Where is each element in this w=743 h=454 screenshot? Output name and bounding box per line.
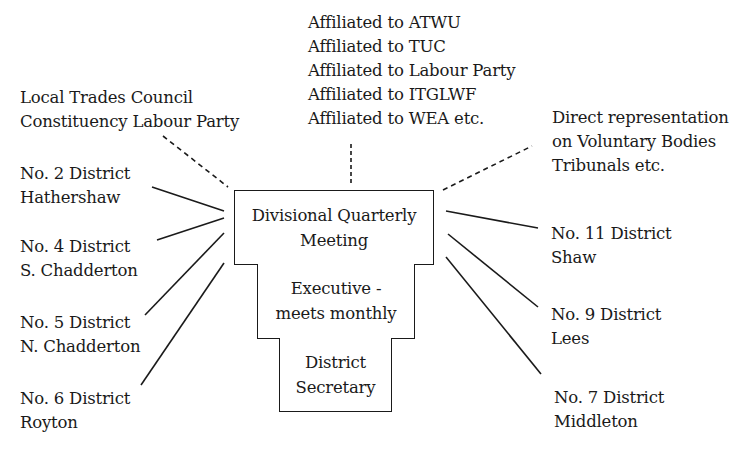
box-line-1: District — [305, 350, 366, 375]
direct-representation: Direct representation on Voluntary Bodie… — [552, 106, 729, 178]
box-line-2: Meeting — [300, 228, 368, 253]
line-district-9 — [448, 234, 538, 307]
box-line-1: Executive - — [291, 276, 382, 301]
district-number: No. 5 District — [20, 311, 140, 335]
direct-representation-line-2: on Voluntary Bodies — [552, 130, 729, 154]
district-name: Shaw — [551, 246, 671, 270]
line-district-2 — [152, 187, 224, 211]
line-district-6 — [141, 263, 224, 385]
affiliations-list: Affiliated to ATWU Affiliated to TUC Aff… — [308, 11, 515, 131]
divisional-quarterly-meeting-box: Divisional Quarterly Meeting — [234, 190, 434, 265]
local-trades-council: Local Trades Council — [20, 86, 239, 110]
line-district-4 — [157, 218, 224, 240]
district-number: No. 7 District — [554, 386, 664, 410]
district-6: No. 6 District Royton — [20, 387, 130, 435]
affiliation-tuc: Affiliated to TUC — [308, 35, 515, 59]
dashed-line-local-bodies — [163, 136, 228, 187]
district-2: No. 2 District Hathershaw — [20, 162, 130, 210]
district-name: Hathershaw — [20, 186, 130, 210]
direct-representation-line-1: Direct representation — [552, 106, 729, 130]
district-number: No. 11 District — [551, 222, 671, 246]
district-9: No. 9 District Lees — [551, 303, 661, 351]
district-name: Lees — [551, 327, 661, 351]
district-number: No. 4 District — [20, 235, 138, 259]
district-4: No. 4 District S. Chadderton — [20, 235, 138, 283]
affiliation-labour-party: Affiliated to Labour Party — [308, 59, 515, 83]
box-line-2: meets monthly — [276, 301, 397, 326]
line-district-7 — [446, 257, 541, 374]
district-name: Royton — [20, 411, 130, 435]
line-district-11 — [446, 211, 538, 228]
line-district-5 — [145, 233, 224, 315]
district-11: No. 11 District Shaw — [551, 222, 671, 270]
district-number: No. 6 District — [20, 387, 130, 411]
affiliation-itglwf: Affiliated to ITGLWF — [308, 83, 515, 107]
executive-box: Executive - meets monthly — [257, 264, 415, 339]
district-number: No. 9 District — [551, 303, 661, 327]
affiliation-wea: Affiliated to WEA etc. — [308, 107, 515, 131]
district-name: S. Chadderton — [20, 259, 138, 283]
direct-representation-line-3: Tribunals etc. — [552, 154, 729, 178]
district-name: N. Chadderton — [20, 335, 140, 359]
box-line-1: Divisional Quarterly — [252, 203, 417, 228]
box-line-2: Secretary — [296, 375, 376, 400]
district-5: No. 5 District N. Chadderton — [20, 311, 140, 359]
district-7: No. 7 District Middleton — [554, 386, 664, 434]
affiliation-atwu: Affiliated to ATWU — [308, 11, 515, 35]
dashed-line-direct-representation — [443, 146, 532, 190]
constituency-labour-party: Constituency Labour Party — [20, 110, 239, 134]
district-secretary-box: District Secretary — [279, 338, 392, 412]
local-bodies: Local Trades Council Constituency Labour… — [20, 86, 239, 134]
district-name: Middleton — [554, 410, 664, 434]
district-number: No. 2 District — [20, 162, 130, 186]
